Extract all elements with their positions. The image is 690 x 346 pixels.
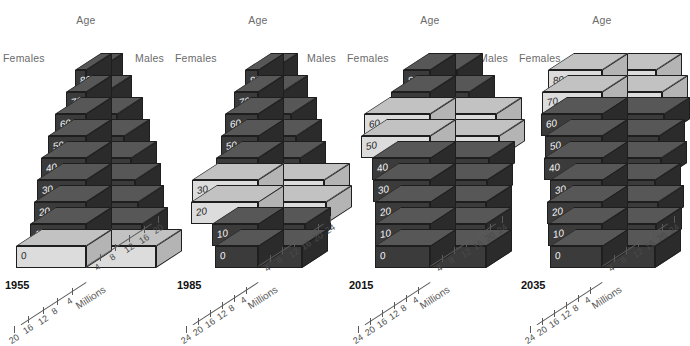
axis-tick (246, 287, 247, 294)
block-front-face: 0 (16, 246, 86, 268)
block-front-face: 0 (375, 246, 431, 268)
female-bar-age-0: 0 (16, 246, 86, 268)
millions-axis-title: Millions (418, 284, 452, 311)
axis-tick-label: 16 (21, 322, 35, 336)
axis-tick (234, 295, 235, 302)
axis-tick (270, 255, 271, 262)
millions-axis-title: Millions (246, 284, 280, 311)
age-band-value-0: 0 (555, 250, 561, 262)
age-band-value-50: 50 (366, 139, 377, 152)
axis-tick-label: 8 (399, 302, 409, 313)
pyramid-panel-2015: AgeFemalesMales201580+706050403020100242… (344, 0, 516, 333)
millions-axis-title: Millions (74, 284, 108, 311)
axis-tick (406, 295, 407, 302)
axis-tick (442, 255, 443, 262)
axis-tick (590, 287, 591, 294)
axis-tick-label: 12 (36, 313, 50, 327)
age-band-value-20: 20 (196, 205, 207, 218)
axis-tick-label: 16 (203, 316, 217, 330)
axis-tick-label: 16 (375, 316, 389, 330)
axis-tick (282, 247, 283, 254)
pyramid-panel-2035: AgeFemalesMales203580+706050403020100242… (516, 0, 688, 333)
pyramid-blocks: 80+70605040302010024201612844812162024Mi… (516, 0, 688, 333)
age-band-value-0: 0 (21, 250, 27, 262)
axis-tick (578, 295, 579, 302)
block-front-face: 0 (215, 246, 259, 268)
axis-tick-label: 8 (50, 305, 60, 316)
axis-tick-label: 8 (227, 302, 237, 313)
axis-tick-label: 8 (571, 302, 581, 313)
axis-tick (418, 287, 419, 294)
block-front-face: 0 (550, 246, 603, 268)
axis-tick-label: 20 (7, 332, 21, 346)
millions-axis-title: Millions (590, 284, 624, 311)
axis-tick-label: 24 (351, 332, 365, 346)
female-bar-age-0: 0 (215, 246, 259, 268)
axis-tick-label: 24 (179, 332, 193, 346)
axis-tick (57, 298, 58, 305)
axis-tick (614, 255, 615, 262)
pyramid-blocks: 80+70605040302010024201612844812162024Mi… (172, 0, 344, 333)
pyramid-blocks: 80+7060504030201002016128448121620Millio… (0, 0, 172, 333)
axis-tick (100, 254, 101, 261)
axis-tick-label: 24 (523, 332, 537, 346)
axis-tick-label: 20 (535, 324, 549, 338)
axis-tick-label: 12 (215, 308, 229, 322)
female-bar-age-0: 0 (375, 246, 431, 268)
age-band-value-0: 0 (380, 250, 386, 262)
pyramid-panel-1985: AgeFemalesMales198580+706050403020100242… (172, 0, 344, 333)
axis-tick-label: 20 (363, 324, 377, 338)
axis-tick-label: 20 (191, 324, 205, 338)
age-band-value-40: 40 (549, 161, 560, 174)
axis-tick-label: 12 (559, 308, 573, 322)
axis-tick-label: 16 (547, 316, 561, 330)
pyramid-panel-1955: AgeFemalesMales195580+706050403020100201… (0, 0, 172, 333)
axis-tick (454, 247, 455, 254)
axis-tick (626, 247, 627, 254)
axis-tick (115, 244, 116, 251)
axis-tick-label: 12 (387, 308, 401, 322)
age-band-value-0: 0 (220, 250, 226, 262)
pyramid-blocks: 80+70605040302010024201612844812162024Mi… (344, 0, 516, 333)
female-bar-age-0: 0 (550, 246, 603, 268)
axis-tick (72, 288, 73, 295)
